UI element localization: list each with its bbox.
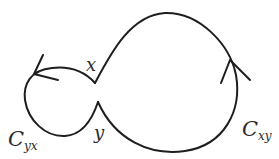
curve-cyx [25, 68, 98, 136]
label-x: x [86, 54, 96, 75]
label-cxy: Cxy [242, 117, 272, 143]
label-cyx: Cyx [8, 127, 38, 153]
curve-cxy [95, 13, 237, 152]
diagram-canvas: x y Cyx Cxy [0, 0, 279, 159]
label-y: y [93, 122, 105, 143]
